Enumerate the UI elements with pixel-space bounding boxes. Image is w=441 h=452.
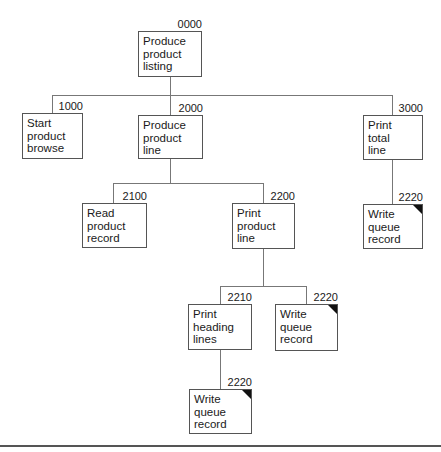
module-number: 2100 [107,190,147,202]
connector-line [52,95,393,96]
module-label: Write queue record [280,308,313,345]
module-number: 2220 [298,291,338,303]
module-number: 2200 [255,190,295,202]
module-box-n2000: Produce product line [138,115,203,159]
module-label: Start product browse [27,117,65,154]
module-number: 2220 [383,191,423,203]
module-label: Produce product listing [143,35,186,72]
structure-chart: 0000Produce product listing1000Start pro… [0,0,441,452]
shared-module-marker-icon [328,305,337,314]
module-number: 2220 [212,376,252,388]
module-label: Write queue record [368,208,401,245]
connector-line [113,183,264,184]
module-box-n1000: Start product browse [22,113,83,159]
module-label: Print heading lines [193,308,234,345]
module-box-n2100: Read product record [82,203,147,248]
module-label: Print total line [368,119,392,156]
module-label: Produce product line [143,119,186,156]
connector-line [170,159,171,183]
module-box-n3000: Print total line [363,115,423,160]
module-number: 1000 [43,100,83,112]
shared-module-marker-icon [413,205,422,214]
module-number: 3000 [383,102,423,114]
module-box-n2220a: Write queue record [363,204,423,249]
module-label: Read product record [87,207,125,244]
module-box-n2220c: Write queue record [189,389,252,434]
connector-line [220,286,307,287]
module-label: Print product line [237,207,275,244]
module-box-n2210: Print heading lines [188,304,252,350]
module-box-n2200: Print product line [232,203,295,249]
connector-line [170,77,171,95]
module-number: 0000 [162,18,202,30]
module-number: 2000 [163,102,203,114]
shared-module-marker-icon [242,390,251,399]
module-box-root: Produce product listing [138,31,202,77]
connector-line [263,249,264,286]
bottom-rule [0,445,441,447]
module-box-n2220b: Write queue record [275,304,338,351]
module-label: Write queue record [194,393,227,430]
module-number: 2210 [212,291,252,303]
